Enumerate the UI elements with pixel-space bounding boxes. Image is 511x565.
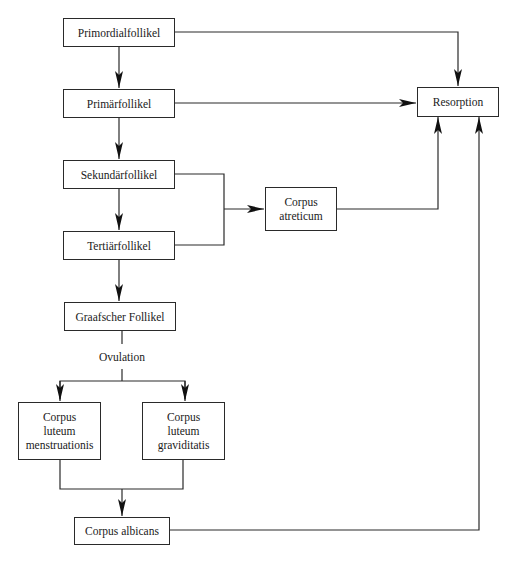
node-label: Primärfollikel (87, 97, 152, 111)
node-primordialfollikel: Primordialfollikel (63, 18, 175, 47)
node-label: Corpus luteum graviditatis (158, 410, 210, 452)
node-primaerfollikel: Primärfollikel (63, 89, 175, 118)
node-graafscher-follikel: Graafscher Follikel (64, 302, 176, 331)
node-label: Resorption (433, 95, 483, 109)
node-corpus-luteum-menstruationis: Corpus luteum menstruationis (18, 402, 101, 460)
node-corpus-atreticum: Corpus atreticum (265, 187, 337, 231)
node-sekundaerfollikel: Sekundärfollikel (63, 160, 175, 189)
node-resorption: Resorption (417, 87, 499, 117)
node-label: Graafscher Follikel (75, 310, 164, 324)
follicle-development-diagram: Primordialfollikel Primärfollikel Sekund… (0, 0, 511, 565)
node-label: Tertiärfollikel (87, 239, 151, 253)
node-corpus-luteum-graviditatis: Corpus luteum graviditatis (142, 402, 225, 460)
node-tertiaerfollikel: Tertiärfollikel (63, 231, 175, 260)
connector-lines (0, 0, 511, 565)
node-label: Corpus atreticum (279, 195, 322, 223)
node-label: Corpus luteum menstruationis (26, 410, 94, 452)
node-corpus-albicans: Corpus albicans (74, 517, 170, 545)
node-label: Primordialfollikel (78, 26, 160, 40)
edge-label-ovulation: Ovulation (88, 350, 156, 364)
arrow-atreticum-to-resorption (337, 117, 438, 209)
arrow-albicans-to-resorption (170, 117, 479, 530)
arrow-primordial-to-resorption (175, 32, 458, 86)
node-label: Sekundärfollikel (81, 168, 158, 182)
node-label: Corpus albicans (85, 524, 159, 538)
